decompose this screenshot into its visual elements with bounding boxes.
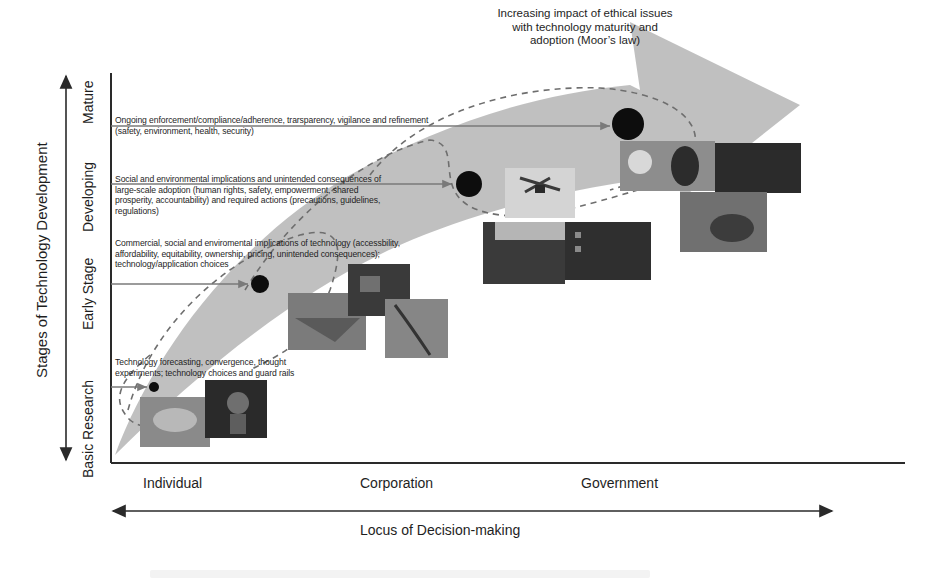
x-category-corporation: Corporation <box>360 475 433 491</box>
marker-mature <box>612 108 644 140</box>
description-line: (safety, environment, health, security) <box>115 126 535 137</box>
headline-line: with technology maturity and <box>480 21 690 35</box>
description-line: technology/application choices <box>115 259 515 270</box>
stage-description-basic: Technology forecasting, convergence, tho… <box>115 357 355 378</box>
y-axis-title: Stages of Technology Development <box>33 142 50 378</box>
x-category-individual: Individual <box>143 475 202 491</box>
stage-description-mature: Ongoing enforcement/compliance/adherence… <box>115 115 535 136</box>
stage-label-developing: Developing <box>80 162 96 232</box>
x-category-government: Government <box>581 475 658 491</box>
description-line: Commercial, social and enviromental impl… <box>115 238 515 249</box>
stage-description-early: Commercial, social and enviromental impl… <box>115 238 515 270</box>
marker-basic-research <box>149 382 159 392</box>
description-line: regulations) <box>115 206 475 217</box>
stage-label-mature: Mature <box>80 80 96 124</box>
x-axis-title: Locus of Decision-making <box>360 522 520 538</box>
stage-description-developing: Social and environmental implications an… <box>115 174 475 216</box>
stage-label-basic-research: Basic Research <box>80 380 96 478</box>
description-line: prosperity, accountability) and required… <box>115 195 475 206</box>
description-line: large-scale adoption (human rights, safe… <box>115 185 475 196</box>
description-line: affordability, equitability, ownership, … <box>115 249 515 260</box>
description-line: Social and environmental implications an… <box>115 174 475 185</box>
headline-line: adoption (Moor’s law) <box>480 34 690 48</box>
marker-early-stage <box>251 275 269 293</box>
stage-label-early-stage: Early Stage <box>80 258 96 330</box>
description-line: experiments; technology choices and guar… <box>115 368 355 379</box>
headline: Increasing impact of ethical issues with… <box>480 7 690 48</box>
description-line: Technology forecasting, convergence, tho… <box>115 357 355 368</box>
headline-line: Increasing impact of ethical issues <box>480 7 690 21</box>
description-line: Ongoing enforcement/compliance/adherence… <box>115 115 535 126</box>
faint-caption <box>150 570 650 578</box>
